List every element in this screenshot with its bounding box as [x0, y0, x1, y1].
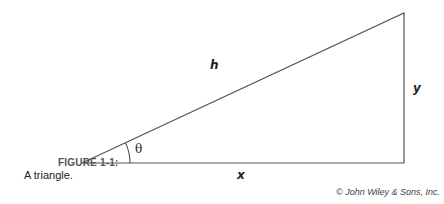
hypotenuse-label: h: [210, 58, 219, 72]
triangle-shape: [82, 13, 404, 163]
figure-caption-text: A triangle.: [24, 169, 73, 181]
figure-caption-label: FIGURE 1-1:: [58, 157, 138, 168]
angle-label: θ: [135, 142, 142, 156]
adjacent-label: x: [237, 168, 245, 182]
figure-credit: © John Wiley & Sons, Inc.: [336, 187, 440, 197]
opposite-label: y: [413, 81, 421, 95]
